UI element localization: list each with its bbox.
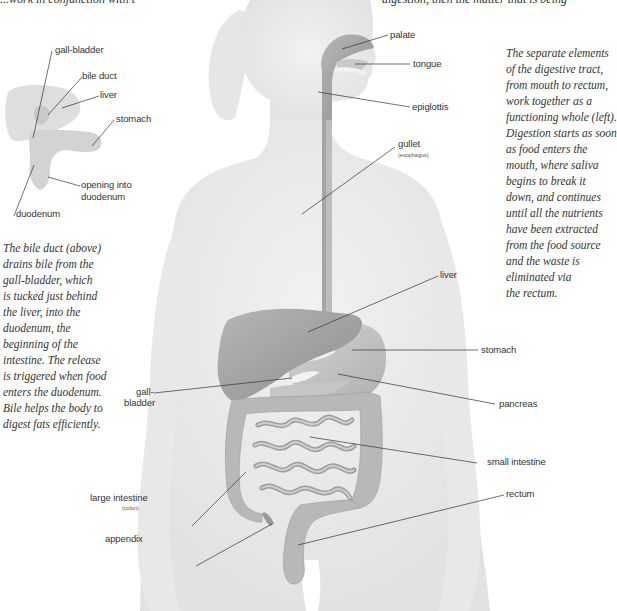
inset-label-opening-line1: opening into <box>81 179 132 190</box>
caption-line: begins to break it <box>506 173 617 189</box>
inset-label-liver: liver <box>100 89 117 100</box>
caption-line: is triggered when food <box>3 368 106 384</box>
inset-bile-duct-diagram <box>5 85 101 190</box>
inset-label-duodenum: duodenum <box>16 208 60 219</box>
caption-line: mouth, where saliva <box>506 157 617 173</box>
label-palate: palate <box>390 29 415 40</box>
label-pancreas: pancreas <box>499 398 537 409</box>
inset-label-opening-line2: duodenum <box>81 191 125 202</box>
inset-label-gall-bladder: gall-bladder <box>55 44 103 55</box>
caption-line: drains bile from the <box>3 256 106 272</box>
caption-line: gall-bladder, which <box>3 272 106 288</box>
label-gall-line1: gall- <box>136 386 153 397</box>
right-caption: The separate elements of the digestive t… <box>506 45 617 301</box>
label-small-intestine: small intestine <box>487 456 546 467</box>
label-large-intestine-sub: (colon) <box>122 505 139 511</box>
caption-line: as food enters the <box>506 141 617 157</box>
label-tongue: tongue <box>413 58 441 69</box>
caption-line: work together as a <box>506 93 617 109</box>
caption-line: beginning of the <box>3 336 106 352</box>
caption-line: until all the nutrients <box>506 205 617 221</box>
caption-line: Bile helps the body to <box>3 400 106 416</box>
label-liver: liver <box>440 269 457 280</box>
caption-line: intestine. The release <box>3 352 106 368</box>
caption-line: digest fats efficiently. <box>3 416 106 432</box>
caption-line: the liver, into the <box>3 304 106 320</box>
label-gall-line2: bladder <box>124 397 155 408</box>
caption-line: Digestion starts as soon <box>506 125 617 141</box>
caption-line: down, and continues <box>506 189 617 205</box>
left-caption: The bile duct (above) drains bile from t… <box>3 240 106 432</box>
label-stomach: stomach <box>481 344 516 355</box>
caption-line: of the digestive tract, <box>506 61 617 77</box>
label-large-intestine: large intestine <box>90 492 148 503</box>
caption-line: functioning whole (left). <box>506 109 617 125</box>
caption-line: duodenum, the <box>3 320 106 336</box>
label-gullet-sub: (esophagus) <box>398 152 429 158</box>
label-epiglottis: epiglottis <box>412 101 449 112</box>
caption-line: eliminated via <box>506 269 617 285</box>
label-rectum: rectum <box>506 488 534 499</box>
caption-line: from mouth to rectum, <box>506 77 617 93</box>
caption-line: enters the duodenum. <box>3 384 106 400</box>
inset-label-stomach: stomach <box>116 113 151 124</box>
caption-line: the rectum. <box>506 285 617 301</box>
caption-line: The bile duct (above) <box>3 240 106 256</box>
label-gullet: gullet <box>398 138 420 149</box>
caption-line: from the food source <box>506 237 617 253</box>
caption-line: The separate elements <box>506 45 617 61</box>
caption-line: and the waste is <box>506 253 617 269</box>
caption-line: have been extracted <box>506 221 617 237</box>
inset-label-bile-duct: bile duct <box>82 70 116 81</box>
label-appendix: appendix <box>105 533 143 544</box>
caption-line: is tucked just behind <box>3 288 106 304</box>
